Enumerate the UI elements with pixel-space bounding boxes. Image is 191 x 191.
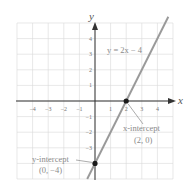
x-tick-label: 2 — [125, 106, 128, 112]
y-tick-label: 1 — [89, 82, 92, 88]
x-axis-arrow-icon — [168, 98, 176, 104]
x-tick-label: −4 — [29, 106, 35, 112]
x-tick-label: 1 — [109, 106, 112, 112]
x-intercept-label: x-intercept — [123, 123, 160, 133]
x-intercept-coords: (2, 0) — [134, 135, 153, 145]
x-tick-label: −3 — [45, 106, 51, 112]
y-tick-label: 2 — [89, 67, 92, 73]
y-tick-label: −3 — [86, 145, 92, 151]
coordinate-plane: x y −4−3−2−112344321−1−2−3 y = 2x − 4 x-… — [0, 0, 191, 191]
x-tick-label: 3 — [140, 106, 143, 112]
x-axis-label: x — [177, 94, 183, 106]
line-y-equals-2x-minus-4 — [87, 17, 168, 179]
x-tick-label: 4 — [156, 106, 159, 112]
y-tick-label: −2 — [86, 129, 92, 135]
x-intercept-point — [124, 98, 129, 103]
y-intercept-label: y-intercept — [32, 154, 69, 164]
equation-label: y = 2x − 4 — [107, 45, 143, 55]
y-tick-label: 3 — [89, 51, 92, 57]
x-tick-label: −2 — [61, 106, 67, 112]
y-axis-label: y — [88, 10, 94, 22]
y-intercept-point — [92, 161, 97, 166]
y-tick-label: −1 — [86, 114, 92, 120]
x-tick-label: −1 — [76, 106, 82, 112]
y-intercept-coords: (0, −4) — [39, 165, 62, 175]
y-tick-label: 4 — [89, 36, 92, 42]
y-intercept-leader — [76, 160, 92, 162]
